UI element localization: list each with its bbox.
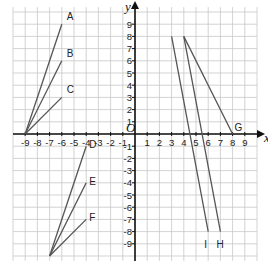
y-tick-label: -5	[124, 190, 132, 201]
segment-label-h: H	[216, 239, 223, 250]
axes: xyO	[13, 0, 268, 261]
x-tick-label: -6	[58, 137, 66, 148]
x-tick-label: -2	[106, 137, 114, 148]
y-tick-label: 8	[127, 31, 132, 42]
segment-label-c: C	[67, 84, 74, 95]
y-tick-label: -8	[124, 226, 132, 237]
x-tick-label: -9	[21, 137, 29, 148]
y-tick-label: -9	[124, 238, 132, 249]
segment-a	[25, 24, 62, 134]
x-tick-label: -7	[45, 137, 53, 148]
x-tick-label: 6	[206, 137, 211, 148]
x-tick-label: -5	[70, 137, 78, 148]
y-tick-label: 2	[127, 104, 132, 115]
x-tick-label: 9	[242, 137, 247, 148]
y-tick-label: 1	[127, 116, 132, 127]
x-tick-label: 1	[145, 137, 150, 148]
y-tick-label: 6	[127, 55, 132, 66]
x-tick-label: 8	[230, 137, 235, 148]
segment-label-e: E	[89, 176, 96, 187]
x-tick-label: 2	[157, 137, 162, 148]
x-axis-label: x	[263, 130, 268, 145]
y-tick-label: -4	[124, 177, 132, 188]
x-tick-label: 3	[169, 137, 174, 148]
x-tick-label: -8	[33, 137, 41, 148]
segment-label-b: B	[67, 48, 74, 59]
y-tick-label: -3	[124, 165, 132, 176]
segment-label-d: D	[89, 139, 96, 150]
y-tick-label: -6	[124, 202, 132, 213]
segment-label-g: G	[235, 122, 243, 133]
y-tick-label: 7	[127, 43, 132, 54]
x-tick-label: 5	[193, 137, 198, 148]
y-tick-label: 4	[127, 80, 132, 91]
segment-d	[50, 146, 87, 256]
segment-label-i: I	[204, 239, 207, 250]
y-tick-label: -2	[124, 153, 132, 164]
y-tick-label: 9	[127, 19, 132, 30]
y-tick-label: 3	[127, 92, 132, 103]
x-tick-label: 7	[218, 137, 223, 148]
coordinate-grid: xyO -9-8-7-6-5-4-3-2-1123456789987654321…	[0, 0, 268, 271]
y-tick-label: -1	[124, 141, 132, 152]
x-tick-label: 4	[181, 137, 186, 148]
y-axis-label: y	[123, 0, 131, 14]
segment-label-a: A	[67, 11, 74, 22]
y-axis-arrow-icon	[131, 1, 139, 9]
y-tick-label: -7	[124, 214, 132, 225]
segment-label-f: F	[89, 212, 95, 223]
y-tick-label: 5	[127, 68, 132, 79]
